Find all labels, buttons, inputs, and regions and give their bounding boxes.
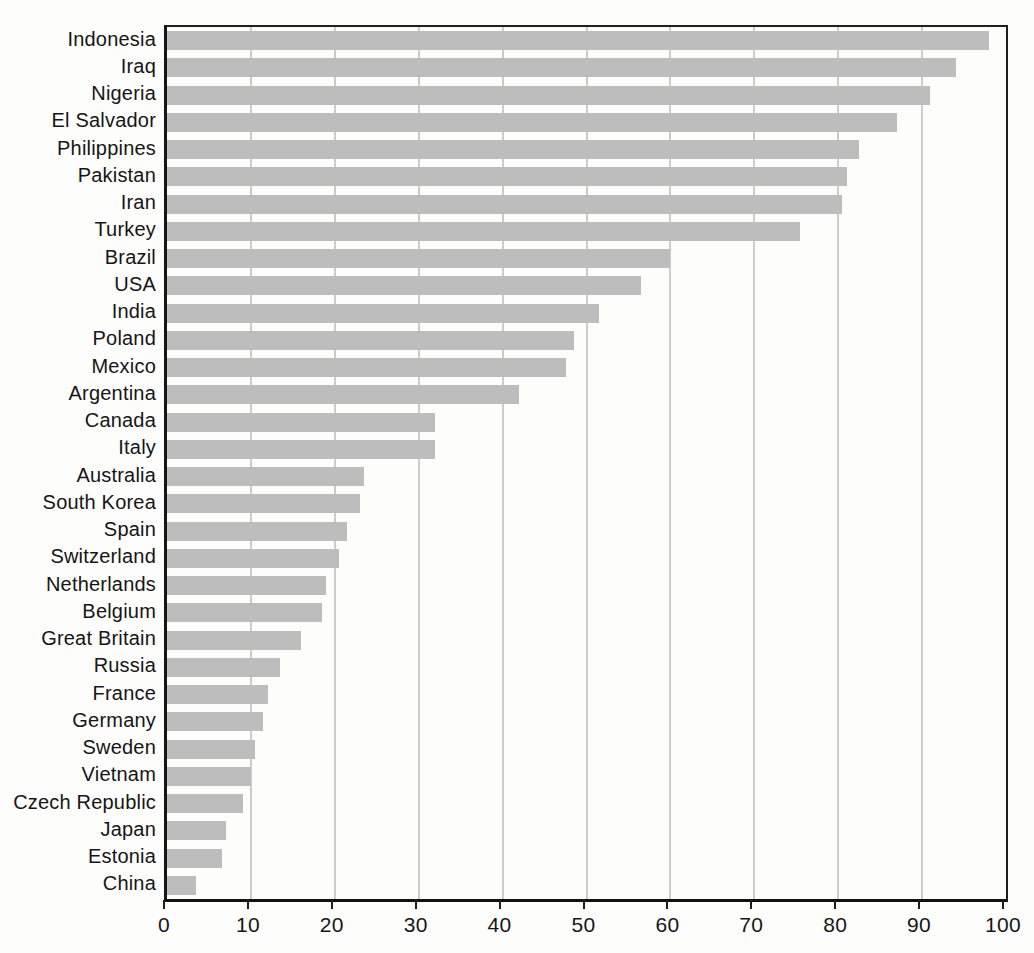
x-tick-30 xyxy=(415,900,417,909)
category-label-brazil: Brazil xyxy=(0,247,156,267)
bar-germany xyxy=(167,712,263,731)
category-label-belgium: Belgium xyxy=(0,601,156,621)
category-label-usa: USA xyxy=(0,274,156,294)
x-tick-label-20: 20 xyxy=(302,913,362,937)
horizontal-bar-chart: IndonesiaIraqNigeriaEl SalvadorPhilippin… xyxy=(0,0,1034,953)
category-label-canada: Canada xyxy=(0,410,156,430)
x-tick-90 xyxy=(918,900,920,909)
bar-switzerland xyxy=(167,549,339,568)
x-tick-70 xyxy=(750,900,752,909)
y-axis-labels: IndonesiaIraqNigeriaEl SalvadorPhilippin… xyxy=(0,25,156,897)
bar-belgium xyxy=(167,603,322,622)
bar-spain xyxy=(167,522,347,541)
x-axis: 0102030405060708090100 xyxy=(164,900,1003,950)
category-label-australia: Australia xyxy=(0,465,156,485)
bar-china xyxy=(167,876,196,895)
bar-estonia xyxy=(167,849,222,868)
category-label-pakistan: Pakistan xyxy=(0,165,156,185)
category-label-netherlands: Netherlands xyxy=(0,574,156,594)
category-label-india: India xyxy=(0,301,156,321)
x-tick-10 xyxy=(247,900,249,909)
category-label-spain: Spain xyxy=(0,519,156,539)
category-label-turkey: Turkey xyxy=(0,219,156,239)
category-label-france: France xyxy=(0,683,156,703)
bar-iran xyxy=(167,195,842,214)
category-label-argentina: Argentina xyxy=(0,383,156,403)
category-label-vietnam: Vietnam xyxy=(0,764,156,784)
bar-pakistan xyxy=(167,167,847,186)
x-tick-60 xyxy=(666,900,668,909)
x-tick-label-100: 100 xyxy=(973,913,1033,937)
x-tick-50 xyxy=(583,900,585,909)
category-label-russia: Russia xyxy=(0,655,156,675)
category-label-mexico: Mexico xyxy=(0,356,156,376)
bar-netherlands xyxy=(167,576,326,595)
x-tick-label-80: 80 xyxy=(805,913,865,937)
bar-south-korea xyxy=(167,494,360,513)
category-label-iraq: Iraq xyxy=(0,56,156,76)
bar-japan xyxy=(167,821,226,840)
bar-turkey xyxy=(167,222,800,241)
bar-sweden xyxy=(167,740,255,759)
bar-mexico xyxy=(167,358,566,377)
bar-canada xyxy=(167,413,435,432)
x-tick-label-30: 30 xyxy=(386,913,446,937)
category-label-japan: Japan xyxy=(0,819,156,839)
category-label-south-korea: South Korea xyxy=(0,492,156,512)
x-tick-label-60: 60 xyxy=(637,913,697,937)
category-label-switzerland: Switzerland xyxy=(0,546,156,566)
category-label-czech-republic: Czech Republic xyxy=(0,792,156,812)
x-tick-label-50: 50 xyxy=(554,913,614,937)
x-tick-100 xyxy=(1002,900,1004,909)
bar-el-salvador xyxy=(167,113,897,132)
x-tick-label-90: 90 xyxy=(889,913,949,937)
x-tick-80 xyxy=(834,900,836,909)
bar-iraq xyxy=(167,58,956,77)
x-tick-40 xyxy=(499,900,501,909)
bar-russia xyxy=(167,658,280,677)
bar-indonesia xyxy=(167,31,989,50)
bar-usa xyxy=(167,276,641,295)
x-tick-label-40: 40 xyxy=(470,913,530,937)
gridline-90 xyxy=(921,27,923,899)
category-label-china: China xyxy=(0,873,156,893)
category-label-germany: Germany xyxy=(0,710,156,730)
x-tick-20 xyxy=(331,900,333,909)
bar-philippines xyxy=(167,140,859,159)
x-tick-label-70: 70 xyxy=(721,913,781,937)
category-label-indonesia: Indonesia xyxy=(0,29,156,49)
bar-great-britain xyxy=(167,631,301,650)
bar-czech-republic xyxy=(167,794,243,813)
category-label-italy: Italy xyxy=(0,437,156,457)
bar-poland xyxy=(167,331,574,350)
bar-vietnam xyxy=(167,767,251,786)
bar-nigeria xyxy=(167,86,930,105)
bar-australia xyxy=(167,467,364,486)
x-tick-label-10: 10 xyxy=(218,913,278,937)
bar-brazil xyxy=(167,249,670,268)
category-label-sweden: Sweden xyxy=(0,737,156,757)
x-tick-label-0: 0 xyxy=(134,913,194,937)
category-label-nigeria: Nigeria xyxy=(0,83,156,103)
category-label-great-britain: Great Britain xyxy=(0,628,156,648)
category-label-iran: Iran xyxy=(0,192,156,212)
bar-france xyxy=(167,685,268,704)
category-label-el-salvador: El Salvador xyxy=(0,110,156,130)
bar-argentina xyxy=(167,385,519,404)
category-label-estonia: Estonia xyxy=(0,846,156,866)
category-label-philippines: Philippines xyxy=(0,138,156,158)
category-label-poland: Poland xyxy=(0,328,156,348)
plot-area xyxy=(164,25,1008,902)
x-tick-0 xyxy=(163,900,165,909)
bar-italy xyxy=(167,440,435,459)
bar-india xyxy=(167,304,599,323)
